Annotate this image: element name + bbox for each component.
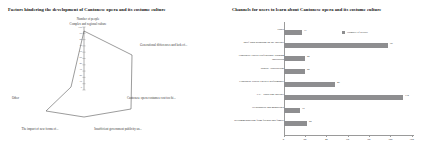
x-tick-label: 20	[304, 138, 307, 141]
right-panel-bar: Channels for users to learn about Canton…	[222, 0, 444, 154]
bar-row: Cantonese Opera Theater performance 48	[222, 80, 444, 91]
bar-value-label: 22	[309, 120, 312, 123]
x-tick-label: 120	[410, 138, 414, 141]
bar-category-label: Cantonese Opera Professional Training In…	[228, 54, 284, 61]
bar-value-label: 98	[390, 42, 393, 45]
x-tick-label: 100	[388, 138, 392, 141]
bar-fill	[284, 56, 305, 61]
bar-category-label: Brief understanding on the Internet	[228, 41, 284, 45]
bar-row: Newspapers and magazines 15	[222, 106, 444, 117]
bar-category-label: School Associations	[228, 67, 284, 71]
bar-fill	[284, 43, 388, 48]
left-panel-radar: Factors hindering the development of Can…	[0, 0, 222, 154]
bar-fill	[284, 95, 403, 100]
bar-value-label: 48	[337, 81, 340, 84]
bar-row: Other 17	[222, 28, 444, 39]
bar-row: TV、radio and Internet 112	[222, 93, 444, 104]
x-tick-label: 40	[325, 138, 328, 141]
x-tick-label: 80	[368, 138, 371, 141]
bar-value-label: 20	[307, 55, 310, 58]
bar-value-label: 20	[307, 68, 310, 71]
bar-row: School Associations 20	[222, 67, 444, 78]
x-tick-label: 60	[346, 138, 349, 141]
right-panel-title: Channels for users to learn about Canton…	[232, 7, 381, 13]
bar-row: Cantonese Opera Professional Training In…	[222, 54, 444, 65]
figure-container: Factors hindering the development of Can…	[0, 0, 444, 154]
bar-fill	[284, 69, 305, 74]
bar-category-label: TV、radio and Internet	[228, 93, 284, 97]
bar-category-label: Cantonese Opera Theater performance	[228, 80, 284, 84]
bar-category-label: Other	[228, 28, 284, 32]
bar-category-label: Newspapers and magazines	[228, 106, 284, 110]
bar-fill	[284, 82, 335, 87]
x-tick-label: 0	[283, 138, 284, 141]
bar-chart: Number of people Other 17 Brief understa…	[222, 22, 444, 148]
left-panel-title: Factors hindering the development of Can…	[8, 7, 166, 13]
bar-fill	[284, 121, 307, 126]
bar-value-label: 17	[304, 29, 307, 32]
bar-row: Brief understanding on the Internet 98	[222, 41, 444, 52]
radar-polygon-svg	[0, 14, 222, 142]
bar-row: Recommendations from friends and family …	[222, 119, 444, 130]
bar-value-label: 15	[302, 107, 305, 110]
bar-fill	[284, 30, 302, 35]
bar-fill	[284, 108, 300, 113]
radar-chart: Number of people Complex and regional cu…	[0, 14, 222, 142]
bar-category-label: Recommendations from friends and family	[228, 119, 284, 123]
bar-value-label: 112	[405, 94, 409, 97]
